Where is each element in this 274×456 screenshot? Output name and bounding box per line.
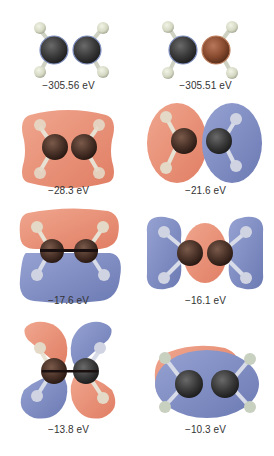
- orbital-panel-mo-4: −16.1 eV: [137, 205, 274, 310]
- orbital-panel-mo-3: −17.6 eV: [0, 205, 137, 310]
- energy-label: −21.6 eV: [137, 185, 274, 196]
- orbital-panel-core-1: −305.56 eV: [0, 0, 137, 95]
- energy-label: −305.56 eV: [0, 80, 137, 91]
- orbital-panel-mo-2: −21.6 eV: [137, 95, 274, 205]
- energy-label: −16.1 eV: [137, 295, 274, 306]
- orbital-panel-mo-1: −28.3 eV: [0, 95, 137, 205]
- orbital-panel-mo-5: −13.8 eV: [0, 310, 137, 456]
- energy-label: −28.3 eV: [0, 185, 137, 196]
- energy-label: −13.8 eV: [0, 424, 137, 435]
- orbital-panel-core-2: −305.51 eV: [137, 0, 274, 95]
- energy-label: −305.51 eV: [137, 80, 274, 91]
- orbital-panel-mo-6: −10.3 eV: [137, 310, 274, 456]
- energy-label: −17.6 eV: [0, 295, 137, 306]
- energy-label: −10.3 eV: [137, 424, 274, 435]
